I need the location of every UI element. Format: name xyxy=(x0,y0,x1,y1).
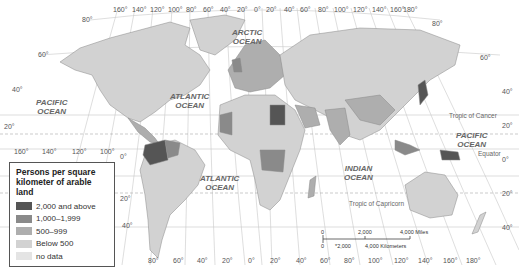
legend-title-line: kilometer of arable land xyxy=(16,177,108,197)
lat-label: 80° xyxy=(82,16,93,23)
lon-label: 60° xyxy=(203,6,214,13)
lon-label: 120° xyxy=(72,148,86,155)
lon-label: 40° xyxy=(296,257,307,264)
lon-label: 40° xyxy=(284,6,295,13)
lon-label: 80° xyxy=(148,257,159,264)
lon-label: 40° xyxy=(197,257,208,264)
ocean-name: OCEAN xyxy=(232,37,262,46)
lon-label: 20° xyxy=(237,6,248,13)
lon-label: 80° xyxy=(344,257,355,264)
ocean-label-north-atlantic: ATLANTIC OCEAN xyxy=(170,92,209,110)
lon-label: 140° xyxy=(372,6,386,13)
lat-label: 40° xyxy=(502,88,513,95)
legend-swatch xyxy=(16,215,32,223)
lon-label: 20° xyxy=(270,257,281,264)
lon-label: 120° xyxy=(150,6,164,13)
lon-label: 40° xyxy=(220,6,231,13)
lon-label: 140° xyxy=(132,6,146,13)
lat-label: 60° xyxy=(480,54,491,61)
ocean-name: PACIFIC xyxy=(36,98,67,107)
ocean-name: ATLANTIC xyxy=(200,174,239,183)
legend-label: 1,000–1,999 xyxy=(36,214,81,223)
lon-label: 0° xyxy=(248,257,255,264)
ocean-label-south-atlantic: ATLANTIC OCEAN xyxy=(200,174,239,192)
lon-label: 0° xyxy=(254,6,261,13)
legend-label: 500–999 xyxy=(36,227,67,236)
lon-label: 100° xyxy=(100,148,114,155)
lat-label: 20° xyxy=(502,190,513,197)
lon-label: 140° xyxy=(418,257,432,264)
legend-swatch xyxy=(16,227,32,235)
lon-label: 60° xyxy=(173,257,184,264)
lon-label: 160° xyxy=(14,148,28,155)
scale-miles-end: 4,000 Miles xyxy=(400,229,428,235)
ocean-label-indian: INDIAN OCEAN xyxy=(344,164,373,182)
ocean-name: ATLANTIC xyxy=(170,92,209,101)
legend-swatch xyxy=(16,252,32,260)
legend-title-line: Persons per square xyxy=(16,167,108,177)
lon-label: 180° xyxy=(466,257,480,264)
australia xyxy=(405,172,458,218)
equator-label: Equator xyxy=(478,150,501,157)
lon-label: 160° xyxy=(443,257,457,264)
scale-km-zero: 0 xyxy=(321,243,324,249)
legend-label: Below 500 xyxy=(36,239,73,248)
lon-label: 60° xyxy=(300,6,311,13)
scale-bar: 0 2,000 4,000 Miles 0 *2,000 4,000 Kilom… xyxy=(320,228,470,252)
ocean-name: INDIAN xyxy=(344,164,373,173)
legend: Persons per square kilometer of arable l… xyxy=(9,162,115,267)
legend-item: no data xyxy=(16,250,108,263)
lon-label: 100° xyxy=(168,6,182,13)
lat-label: 60° xyxy=(38,51,49,58)
lat-label: 0° xyxy=(502,156,509,163)
tropic-of-capricorn-label: Tropic of Capricorn xyxy=(349,200,404,207)
lat-label: 20° xyxy=(120,195,131,202)
ocean-name: OCEAN xyxy=(170,101,209,110)
scale-miles-mid: 2,000 xyxy=(358,229,372,235)
lon-label: 140° xyxy=(42,148,56,155)
ocean-label-pacific-east: PACIFIC OCEAN xyxy=(456,131,487,149)
lat-label: 40° xyxy=(502,224,513,231)
lon-label: 160° xyxy=(113,6,127,13)
lon-label: 80° xyxy=(186,6,197,13)
ocean-name: OCEAN xyxy=(344,173,373,182)
lat-label: 40° xyxy=(122,222,133,229)
legend-title: Persons per square kilometer of arable l… xyxy=(16,167,108,197)
lat-label: 20° xyxy=(502,122,513,129)
legend-item: Below 500 xyxy=(16,238,108,251)
legend-item: 1,000–1,999 xyxy=(16,213,108,226)
lon-label: 100° xyxy=(368,257,382,264)
legend-label: 2,000 and above xyxy=(36,202,96,211)
lon-label: 120° xyxy=(394,257,408,264)
legend-swatch xyxy=(16,202,32,210)
lat-label: 0° xyxy=(120,153,127,160)
lon-label: 180° xyxy=(403,6,417,13)
ocean-label-arctic: ARCTIC OCEAN xyxy=(232,28,262,46)
scale-miles-zero: 0 xyxy=(321,229,324,235)
lon-label: 100° xyxy=(334,6,348,13)
ocean-name: PACIFIC xyxy=(456,131,487,140)
legend-item: 2,000 and above xyxy=(16,200,108,213)
scale-km-mid: *2,000 xyxy=(335,243,351,249)
lat-label: 40° xyxy=(12,86,23,93)
legend-item: 500–999 xyxy=(16,225,108,238)
legend-label: no data xyxy=(36,252,63,261)
lon-label: 20° xyxy=(266,6,277,13)
lat-label: 80° xyxy=(432,20,443,27)
legend-swatch xyxy=(16,240,32,248)
lon-label: 80° xyxy=(318,6,329,13)
ocean-name: OCEAN xyxy=(200,183,239,192)
lon-label: 20° xyxy=(222,257,233,264)
ocean-name: ARCTIC xyxy=(232,28,262,37)
lat-label: 20° xyxy=(4,123,15,130)
lon-label: 120° xyxy=(353,6,367,13)
tropic-of-cancer-label: Tropic of Cancer xyxy=(449,112,497,119)
ocean-name: OCEAN xyxy=(36,107,67,116)
scale-km-end: 4,000 Kilometers xyxy=(365,243,406,249)
ocean-label-pacific-west: PACIFIC OCEAN xyxy=(36,98,67,116)
ocean-name: OCEAN xyxy=(456,140,487,149)
lon-label: 60° xyxy=(320,257,331,264)
